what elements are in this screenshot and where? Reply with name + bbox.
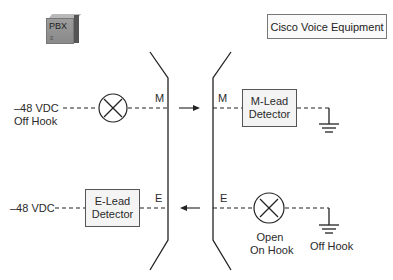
cisco-equipment-label: Cisco Voice Equipment [267,14,387,39]
e-lead-detector: E-Lead Detector [85,189,140,227]
pbx-icon: PBX ≡ [46,14,79,44]
pbx-label: PBX [49,21,67,31]
ground-icon [319,208,339,233]
pbx-vent-icon: ≡ [50,35,54,41]
off-hook-ground-label: Off Hook [310,240,353,253]
pbx-boundary-line [150,52,168,270]
m-letter-right: M [218,92,227,105]
e-letter-left: E [155,192,162,205]
e-letter-right: E [220,192,227,205]
arrow-right-icon [179,105,200,111]
m-source-label: –48 VDC Off Hook [14,102,59,128]
arrow-left-icon [180,205,200,211]
m-letter-left: M [155,92,164,105]
m-lead-detector: M-Lead Detector [242,89,297,127]
e-source-label: –48 VDC [10,202,55,215]
lamp-x-icon [99,94,127,122]
switch-x-icon [254,193,284,223]
cisco-boundary-line [213,52,231,270]
switch-state-label: Open On Hook [250,231,290,257]
ground-icon [319,108,339,132]
